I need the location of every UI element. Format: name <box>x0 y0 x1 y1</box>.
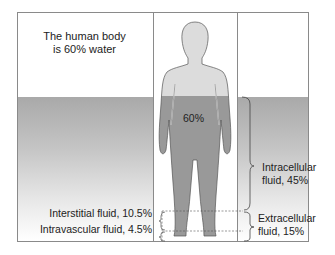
intracellular-line-1: Intracellular <box>262 161 316 174</box>
intracellular-brace-icon <box>242 97 254 210</box>
intravascular-fluid-label: Intravascular fluid, 4.5% <box>40 223 152 236</box>
body-water-percent: 60% <box>183 112 204 124</box>
diagram-title: The human body is 60% water <box>17 30 152 56</box>
intracellular-line-2: fluid, 45% <box>262 174 316 187</box>
extracellular-brace-icon <box>244 212 254 241</box>
extracellular-line-1: Extracellular <box>258 212 316 225</box>
title-line-1: The human body <box>17 30 152 43</box>
human-silhouette-icon <box>150 10 240 246</box>
extracellular-fluid-label: Extracellular fluid, 15% <box>258 212 316 238</box>
interstitial-fluid-label: Interstitial fluid, 10.5% <box>49 207 152 220</box>
intracellular-fluid-label: Intracellular fluid, 45% <box>262 161 316 187</box>
extracellular-line-2: fluid, 15% <box>258 225 316 238</box>
title-line-2: is 60% water <box>17 43 152 56</box>
